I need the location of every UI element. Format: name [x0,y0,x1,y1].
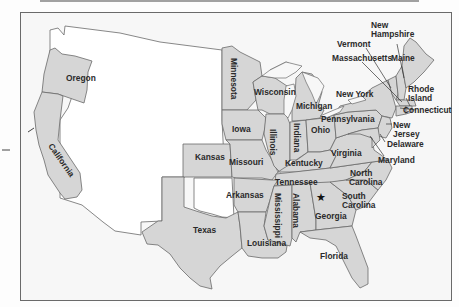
label-minnesota: Minnesota [229,58,239,100]
label-rhode-island-2: Island [408,93,432,103]
label-new-jersey-2: Jersey [393,129,420,139]
label-delaware: Delaware [387,139,424,149]
label-tennessee: Tennessee [275,177,318,187]
label-kansas: Kansas [195,152,225,162]
label-maine: Maine [391,53,415,63]
label-illinois: Illinois [268,129,278,156]
label-alabama: Alabama [291,193,301,228]
label-south-carolina-2: Carolina [342,200,376,210]
label-kentucky: Kentucky [285,158,323,168]
label-missouri: Missouri [229,157,263,167]
lake-superior [262,62,302,78]
capital-star-icon: ★ [316,191,326,203]
label-georgia: Georgia [315,211,347,221]
label-vermont: Vermont [337,39,371,49]
label-new-hampshire-2: Hampshire [371,29,415,39]
label-louisiana: Louisiana [247,238,286,248]
label-iowa: Iowa [232,124,251,134]
label-north-carolina-2: Carolina [349,177,383,187]
label-massachusetts: Massachusetts [332,53,392,63]
label-maryland: Maryland [378,155,415,165]
us-map: Oregon California Minnesota Iowa Kansas … [0,0,459,307]
label-new-york: New York [336,89,374,99]
label-connecticut: Connecticut [403,105,452,115]
label-ohio: Ohio [311,125,330,135]
label-arkansas: Arkansas [226,190,264,200]
scan-mark [28,128,34,132]
label-pennsylvania: Pennsylvania [321,114,375,124]
label-oregon: Oregon [66,73,96,83]
label-florida: Florida [320,251,348,261]
label-michigan: Michigan [296,101,332,111]
label-virginia: Virginia [331,148,362,158]
label-wisconsin: Wisconsin [254,87,296,97]
state-maine [402,38,434,88]
label-texas: Texas [193,225,216,235]
label-indiana: Indiana [292,123,302,153]
label-mississippi: Mississippi [273,193,283,238]
